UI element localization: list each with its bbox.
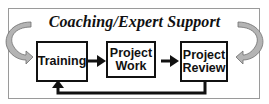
- node-training: Training: [36, 41, 88, 82]
- node-training-label: Training: [38, 55, 87, 68]
- node-project-work: Project Work: [106, 41, 156, 78]
- right-curved-arrow-icon: [236, 22, 263, 64]
- node-project-review: Project Review: [180, 41, 228, 82]
- node-project-review-label-line2: Review: [182, 62, 225, 75]
- left-curved-arrow-icon: [6, 22, 33, 64]
- arrow-training-to-work: [88, 55, 106, 67]
- node-project-work-label-line1: Project: [110, 47, 152, 60]
- arrow-work-to-review: [161, 55, 179, 67]
- node-project-work-label-line2: Work: [115, 60, 146, 73]
- node-project-review-label-line1: Project: [183, 49, 225, 62]
